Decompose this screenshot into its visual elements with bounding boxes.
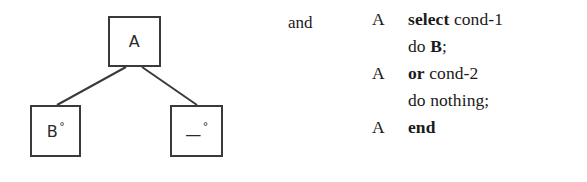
code-punctuation: ; xyxy=(442,36,447,56)
code-line: A select cond-1 xyxy=(372,9,503,36)
tree-node-left: B° xyxy=(30,105,81,157)
code-line-gutter: A xyxy=(372,9,408,30)
tree-node-root: A xyxy=(108,16,161,67)
code-line: do nothing; xyxy=(372,90,503,117)
code-operand: cond-1 xyxy=(449,9,503,29)
code-listing: A select cond-1 do B; A or cond-2 do not… xyxy=(372,9,503,144)
code-operand: do nothing; xyxy=(408,90,489,110)
code-line: A or cond-2 xyxy=(372,63,503,90)
tree-node-right: —° xyxy=(170,105,223,157)
code-operand: do xyxy=(408,36,430,56)
code-keyword: B xyxy=(430,36,442,56)
code-line: A end xyxy=(372,117,503,144)
code-operand: cond-2 xyxy=(425,63,479,83)
code-line-text: do B; xyxy=(408,36,447,57)
code-keyword: select xyxy=(408,9,449,29)
tree-node-root-label: A xyxy=(129,34,140,50)
figure-canvas: A B° —° and A select cond-1 do B; A or c… xyxy=(0,0,587,182)
tree-node-left-marker-icon: ° xyxy=(59,120,65,133)
conjunction-label: and xyxy=(288,14,313,31)
tree-diagram: A B° —° xyxy=(0,0,270,182)
code-line-text: or cond-2 xyxy=(408,63,478,84)
edge-root-to-left xyxy=(57,67,126,105)
edge-root-to-right xyxy=(142,67,197,105)
code-line-text: end xyxy=(408,117,436,138)
tree-node-right-label: —° xyxy=(185,122,208,140)
code-keyword: end xyxy=(408,117,436,137)
code-line-text: do nothing; xyxy=(408,90,489,111)
code-keyword: or xyxy=(408,63,425,83)
tree-node-left-label: B° xyxy=(47,122,64,140)
tree-node-right-text: — xyxy=(185,127,202,143)
tree-node-right-marker-icon: ° xyxy=(203,120,209,133)
tree-node-left-text: B xyxy=(47,122,58,141)
code-line: do B; xyxy=(372,36,503,63)
code-line-gutter: A xyxy=(372,63,408,84)
code-line-text: select cond-1 xyxy=(408,9,503,30)
code-line-gutter: A xyxy=(372,117,408,138)
